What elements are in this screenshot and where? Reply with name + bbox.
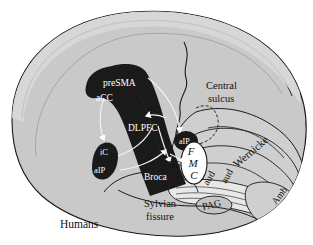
label-iC: iC: [100, 147, 108, 157]
label-C: C: [190, 169, 198, 181]
brain-diagram-svg: preSMA aCC DLPFC Broca iC aIP aIP Centra…: [0, 0, 313, 245]
brain-schematic-figure: preSMA aCC DLPFC Broca iC aIP aIP Centra…: [0, 0, 313, 245]
label-central-sulcus-line1: Central: [206, 80, 237, 91]
label-aCC: aCC: [96, 93, 113, 103]
label-M: M: [187, 157, 198, 169]
label-aIP-left: aIP: [94, 165, 106, 175]
label-F: F: [187, 145, 195, 157]
label-sylvian-line2: fissure: [146, 211, 174, 222]
label-Broca: Broca: [144, 172, 167, 182]
label-ns: NS: [168, 159, 181, 170]
label-central-sulcus-line2: sulcus: [208, 93, 234, 104]
label-sylvian-line1: Sylvian: [144, 198, 177, 209]
label-preSMA: preSMA: [103, 78, 136, 88]
species-caption: Humans: [60, 218, 99, 230]
label-DLPFC: DLPFC: [128, 123, 158, 133]
